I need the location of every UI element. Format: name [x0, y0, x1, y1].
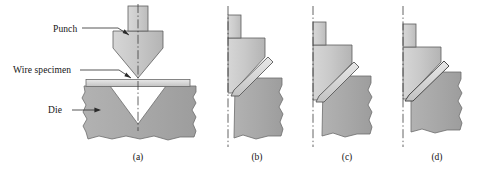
panel-a [72, 4, 196, 140]
label-wire-specimen: Wire specimen [13, 65, 71, 75]
panel-d [403, 6, 462, 147]
punch-shank-d [403, 24, 416, 47]
leader-wire-arrow [124, 72, 131, 78]
punch-shank-c [313, 22, 326, 45]
caption-d: (d) [431, 152, 442, 162]
label-punch: Punch [53, 24, 77, 34]
label-die: Die [48, 105, 62, 115]
punch-shank-b [228, 15, 241, 38]
leader-wire-specimen [80, 70, 131, 78]
caption-b: (b) [251, 152, 262, 162]
wire-bend-test-figure: Punch Wire specimen Die (a) (b) (c) (d) [0, 0, 479, 179]
panel-c [313, 6, 372, 147]
caption-c: (c) [342, 152, 353, 162]
caption-a: (a) [133, 152, 144, 162]
panel-b [228, 6, 283, 147]
